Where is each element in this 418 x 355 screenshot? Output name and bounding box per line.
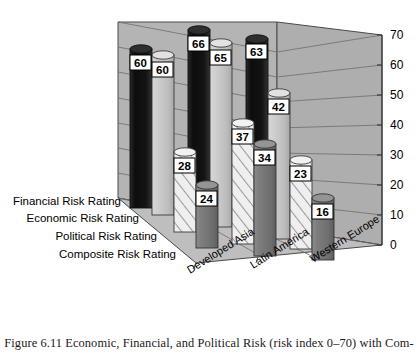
data-label-political-developed-asia: 28	[174, 158, 195, 173]
y-tick-10: 10	[390, 208, 404, 222]
figure-caption: Figure 6.11 Economic, Financial, and Pol…	[0, 336, 418, 351]
data-label-economic-latin-america: 65	[210, 50, 231, 65]
series-label-political: Political Risk Rating	[55, 230, 157, 242]
data-label-composite-developed-asia: 24	[196, 191, 217, 206]
data-label-economic-western-europe: 42	[268, 99, 289, 114]
data-label-text: 60	[134, 57, 147, 69]
series-label-composite: Composite Risk Rating	[59, 248, 176, 260]
data-label-financial-latin-america: 66	[188, 36, 209, 51]
data-label-text: 63	[250, 46, 263, 58]
data-label-economic-developed-asia: 60	[152, 62, 173, 77]
y-tick-20: 20	[390, 178, 404, 192]
data-label-composite-latin-america: 34	[254, 150, 275, 165]
data-label-political-latin-america: 37	[232, 129, 253, 144]
figure-container: 60 60 28 24 66 65	[0, 0, 418, 355]
data-label-text: 60	[156, 64, 169, 76]
data-label-text: 66	[192, 38, 205, 50]
y-tick-30: 30	[390, 148, 404, 162]
y-tick-60: 60	[390, 58, 404, 72]
data-label-composite-western-europe: 16	[312, 204, 333, 219]
data-label-text: 34	[258, 152, 271, 164]
series-label-financial: Financial Risk Rating	[13, 195, 121, 207]
data-label-text: 42	[272, 101, 285, 113]
y-tick-40: 40	[390, 118, 404, 132]
series-label-economic: Economic Risk Rating	[27, 212, 139, 224]
data-label-text: 37	[236, 131, 249, 143]
data-label-text: 23	[294, 168, 307, 180]
data-label-text: 24	[200, 193, 213, 205]
y-tick-50: 50	[390, 88, 404, 102]
data-label-text: 16	[316, 206, 329, 218]
data-label-financial-western-europe: 63	[246, 44, 267, 59]
data-label-political-western-europe: 23	[290, 166, 311, 181]
data-label-text: 28	[178, 160, 191, 172]
y-tick-0: 0	[390, 238, 397, 252]
y-tick-70: 70	[390, 28, 404, 42]
risk-rating-3d-bar-chart: 60 60 28 24 66 65	[0, 0, 418, 355]
data-label-text: 65	[214, 52, 227, 64]
data-label-financial-developed-asia: 60	[130, 55, 151, 70]
